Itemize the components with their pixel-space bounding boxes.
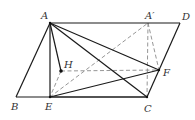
point-H [59,69,63,73]
label-C: C [144,103,152,114]
segment-DC [147,23,180,97]
label-F: F [162,67,171,78]
label-A: A [40,10,48,21]
dashed-segment-ApF [148,23,159,70]
dashed-segment-HF [61,70,159,71]
label-D: D [181,11,190,22]
point-C [146,96,148,98]
label-H: H [63,59,73,70]
segment-AB [16,23,50,97]
label-E: E [44,101,53,112]
dashed-segment-ApC [147,23,148,97]
label-A-prime: A′ [144,10,155,21]
point-F [158,69,160,71]
point-A [49,22,51,24]
geometry-figure: A A′ D B E C F H [0,0,195,120]
solid-lines [16,23,180,97]
label-B: B [10,101,18,112]
point-E [49,96,51,98]
